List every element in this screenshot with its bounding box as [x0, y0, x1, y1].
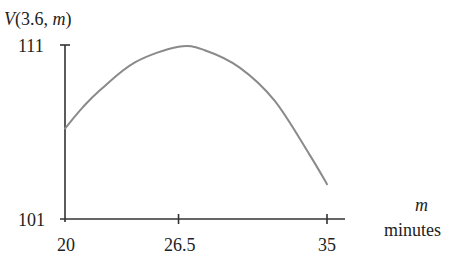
x-axis-units: minutes: [384, 221, 441, 239]
title-close: ): [66, 9, 72, 29]
data-curve: [65, 46, 327, 184]
x-axis-variable: m: [415, 196, 428, 214]
axes: [60, 45, 345, 224]
x-tick-label-26-5: 26.5: [164, 236, 196, 254]
x-tick-label-20: 20: [57, 236, 75, 254]
y-axis-title: V(3.6, m): [4, 10, 72, 28]
title-func: V: [4, 9, 15, 29]
x-tick-label-35: 35: [318, 236, 336, 254]
title-open: (3.6,: [15, 9, 53, 29]
title-var: m: [53, 9, 66, 29]
y-tick-label-101: 101: [18, 211, 45, 229]
y-tick-label-111: 111: [18, 37, 44, 55]
